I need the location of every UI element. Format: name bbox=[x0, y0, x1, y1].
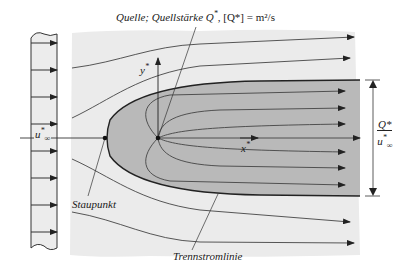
stagnation-point-label: Staupunkt bbox=[72, 198, 116, 210]
width-fraction-label: Q* u*∞ bbox=[377, 118, 392, 152]
y-axis-label: y* bbox=[140, 62, 149, 76]
source-label: Quelle; Quellstärke Q*, [Q*] = m²/s bbox=[116, 9, 275, 23]
half-body-flow-diagram bbox=[0, 0, 408, 271]
stagnation-point bbox=[103, 136, 108, 141]
source-point bbox=[156, 136, 161, 141]
x-axis-label: x* bbox=[241, 140, 250, 154]
freestream-velocity-label: u*∞ bbox=[34, 126, 51, 143]
dividing-streamline-label: Trennstromlinie bbox=[173, 250, 242, 262]
